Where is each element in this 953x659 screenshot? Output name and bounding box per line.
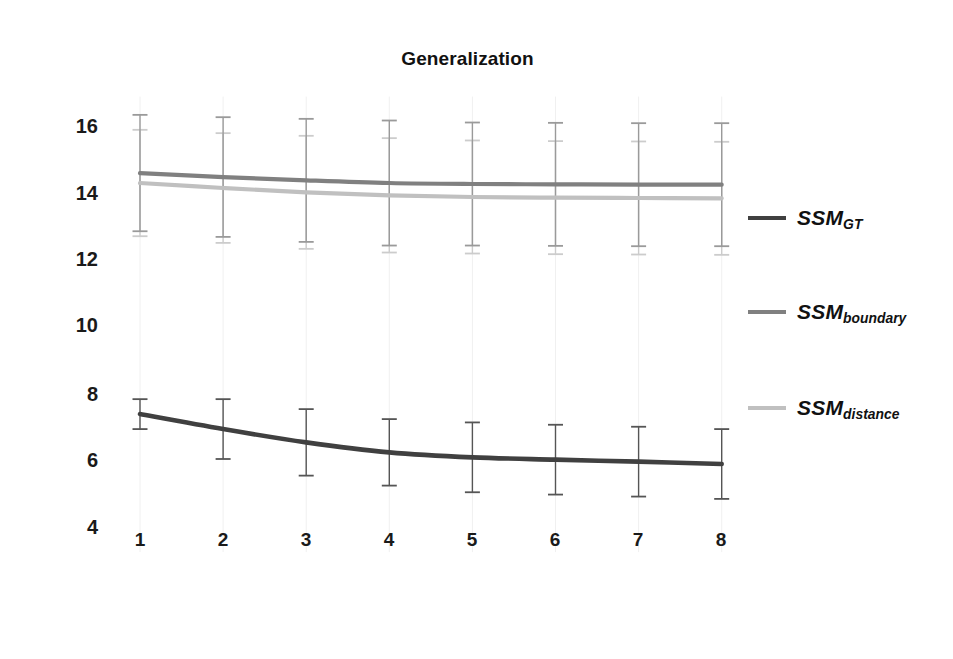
y-tick-label-12: 12 bbox=[28, 249, 98, 269]
y-tick-label-6: 6 bbox=[28, 450, 98, 470]
legend-label-sub-ssm-distance: distance bbox=[843, 406, 899, 422]
legend-label-sub-ssm-boundary: boundary bbox=[843, 310, 906, 326]
x-tick-label-7: 7 bbox=[618, 530, 658, 549]
legend-item-ssm-distance[interactable]: SSMdistance bbox=[748, 396, 899, 420]
legend-label-base-ssm-boundary: SSM bbox=[797, 300, 843, 323]
x-tick-label-5: 5 bbox=[452, 530, 492, 549]
chart-figure: Generalization 16 14 12 10 8 6 4 1 2 3 4… bbox=[0, 0, 953, 659]
legend-label-ssm-gt: SSMGT bbox=[797, 206, 862, 230]
y-tick-label-4: 4 bbox=[28, 517, 98, 537]
x-tick-label-3: 3 bbox=[286, 530, 326, 549]
legend-swatch-ssm-distance bbox=[748, 406, 786, 410]
series-line-ssm-boundary bbox=[140, 173, 722, 185]
legend-label-base-ssm-distance: SSM bbox=[797, 396, 843, 419]
error-bars-ssm-boundary bbox=[133, 115, 730, 246]
x-tick-label-1: 1 bbox=[120, 530, 160, 549]
legend-label-sub-ssm-gt: GT bbox=[843, 216, 862, 232]
x-tick-label-4: 4 bbox=[369, 530, 409, 549]
legend-label-ssm-boundary: SSMboundary bbox=[797, 300, 906, 324]
y-tick-label-16: 16 bbox=[28, 116, 98, 136]
chart-plot-area bbox=[0, 0, 953, 659]
y-tick-label-14: 14 bbox=[28, 183, 98, 203]
legend-label-ssm-distance: SSMdistance bbox=[797, 396, 899, 420]
x-tick-label-6: 6 bbox=[535, 530, 575, 549]
y-tick-label-10: 10 bbox=[28, 315, 98, 335]
legend-item-ssm-boundary[interactable]: SSMboundary bbox=[748, 300, 906, 324]
error-bars-ssm-gt bbox=[133, 399, 730, 499]
legend-label-base-ssm-gt: SSM bbox=[797, 206, 843, 229]
x-tick-label-2: 2 bbox=[203, 530, 243, 549]
series-line-ssm-gt bbox=[140, 414, 722, 464]
legend-swatch-ssm-boundary bbox=[748, 310, 786, 314]
legend-swatch-ssm-gt bbox=[748, 216, 786, 220]
y-tick-label-8: 8 bbox=[28, 384, 98, 404]
legend-item-ssm-gt[interactable]: SSMGT bbox=[748, 206, 862, 230]
x-tick-label-8: 8 bbox=[701, 530, 741, 549]
